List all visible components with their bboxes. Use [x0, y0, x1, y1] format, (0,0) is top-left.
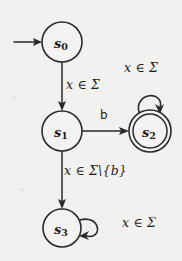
self-loop-s3 — [79, 219, 97, 240]
edge-s1-to-s2 — [82, 127, 129, 135]
edge-label-s0-to-s1-op: ∈ — [73, 77, 91, 92]
edge-s0-to-s1 — [58, 62, 66, 111]
scan-speck — [150, 216, 156, 219]
edge-label-s1-to-s2: b — [100, 108, 108, 122]
edge-label-s2-loop-set: Σ — [149, 60, 158, 75]
scan-speck — [12, 96, 17, 99]
automaton-diagram: s0 s1 s2 s3 x ∈ Σ b x ∈ Σ x ∈ Σ\{b} x ∈ … — [0, 0, 182, 261]
edge-label-s3-loop-op: ∈ — [129, 215, 147, 230]
state-s3[interactable]: s3 — [43, 209, 81, 247]
edge-label-s1-to-s3-op: ∈ — [71, 163, 89, 178]
edge-label-s0-to-s1-set: Σ — [91, 77, 100, 92]
edge-s1-to-s3 — [58, 151, 66, 209]
start-arrow-icon — [14, 38, 42, 46]
edge-label-s2-loop: x ∈ Σ — [124, 60, 158, 75]
state-s1[interactable]: s1 — [42, 111, 82, 151]
state-s2-accepting[interactable]: s2 — [129, 110, 171, 152]
edge-label-s2-loop-op: ∈ — [131, 60, 149, 75]
scan-speck — [20, 188, 24, 191]
edge-label-s0-to-s1: x ∈ Σ — [66, 77, 100, 92]
edge-label-s1-to-s3: x ∈ Σ\{b} — [64, 163, 127, 178]
edge-label-s1-to-s3-set: Σ\{b} — [89, 163, 127, 178]
state-s0[interactable]: s0 — [42, 22, 82, 62]
